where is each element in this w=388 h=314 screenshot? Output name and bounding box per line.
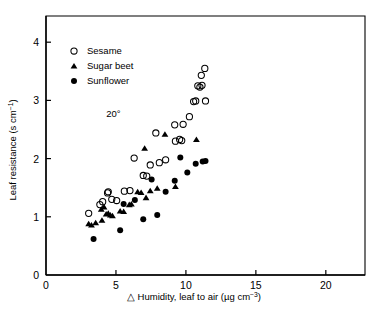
sunflower-data-point — [149, 177, 155, 183]
series-sugar-beet-points — [85, 131, 200, 227]
x-tick-label: 15 — [250, 279, 262, 291]
x-axis-label: △ Humidity, leaf to air (µg cm−3) — [127, 291, 261, 303]
sunflower-data-point — [117, 227, 123, 233]
sesame-data-point — [198, 72, 204, 78]
temperature-annotation: 20° — [106, 108, 121, 119]
sesame-data-point — [179, 137, 185, 143]
sugar-beet-data-point — [154, 185, 161, 191]
x-tick-label: 5 — [113, 279, 119, 291]
sunflower-data-point — [140, 216, 146, 222]
sesame-data-point — [156, 160, 162, 166]
sugar-beet-data-point — [143, 195, 150, 201]
y-axis-ticks: 01234 — [33, 36, 51, 281]
sugar-beet-data-point — [92, 220, 99, 226]
sugar-beet-data-point — [162, 131, 169, 137]
sesame-data-point — [202, 98, 208, 104]
sesame-data-point — [186, 114, 192, 120]
x-tick-label: 20 — [320, 279, 332, 291]
sunflower-data-point — [193, 161, 199, 167]
sunflower-data-point — [91, 236, 97, 242]
sunflower-data-point — [121, 201, 127, 207]
sesame-data-point — [163, 157, 169, 163]
x-tick-label: 10 — [180, 279, 192, 291]
y-tick-label: 4 — [33, 36, 39, 48]
chart-annotations: 20° — [106, 108, 121, 119]
sugar-beet-data-point — [147, 188, 154, 194]
sesame-data-point — [131, 155, 137, 161]
y-tick-label: 0 — [33, 269, 39, 281]
chart-legend: SesameSugar beetSunflower — [71, 45, 134, 86]
sugar-beet-data-point — [172, 184, 179, 190]
sugar-beet-data-point — [141, 145, 148, 151]
sesame-data-point — [172, 122, 178, 128]
series-sesame-points — [86, 65, 209, 216]
legend-label-sesame: Sesame — [87, 45, 122, 56]
legend-marker-sunflower — [71, 78, 77, 84]
sunflower-data-point — [132, 197, 138, 203]
x-axis-ticks: 05101520 — [43, 270, 332, 291]
sesame-data-point — [147, 162, 153, 168]
scatter-chart-figure: 05101520 01234 SesameSugar beetSunflower… — [0, 0, 388, 314]
x-tick-label: 0 — [43, 279, 49, 291]
sunflower-data-point — [203, 158, 209, 164]
legend-marker-sesame — [71, 48, 77, 54]
sunflower-data-point — [172, 178, 178, 184]
label-tail: ) — [258, 291, 261, 302]
y-tick-label: 1 — [33, 211, 39, 223]
sugar-beet-data-point — [99, 217, 106, 223]
y-axis-label: Leaf resistance (s cm−1) — [7, 99, 19, 200]
sesame-data-point — [153, 130, 159, 136]
legend-marker-sugar-beet — [71, 63, 78, 69]
label-tail: ) — [7, 99, 18, 102]
sunflower-data-point — [177, 154, 183, 160]
sugar-beet-data-point — [193, 136, 200, 142]
legend-label-sugar-beet: Sugar beet — [87, 60, 134, 71]
sunflower-data-point — [154, 212, 160, 218]
sesame-data-point — [180, 121, 186, 127]
legend-label-sunflower: Sunflower — [87, 75, 129, 86]
sesame-data-point — [86, 210, 92, 216]
sesame-data-point — [202, 65, 208, 71]
y-tick-label: 2 — [33, 153, 39, 165]
y-tick-label: 3 — [33, 94, 39, 106]
chart-canvas: 05101520 01234 SesameSugar beetSunflower… — [0, 0, 388, 314]
sunflower-data-point — [163, 189, 169, 195]
sunflower-data-point — [184, 170, 190, 176]
